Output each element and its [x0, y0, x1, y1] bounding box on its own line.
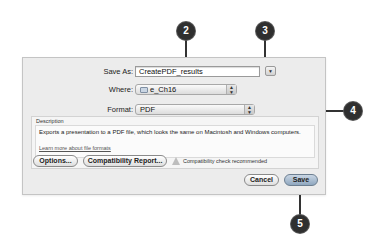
popup-arrows-icon: ▲▼ — [244, 105, 254, 114]
cancel-button[interactable]: Cancel — [244, 174, 279, 186]
description-text: Exports a presentation to a PDF file, wh… — [39, 129, 301, 135]
compatibility-report-button[interactable]: Compatibility Report... — [83, 155, 167, 167]
compatibility-warning-text: Compatibility check recommended — [183, 158, 267, 164]
format-popup[interactable]: PDF ▲▼ — [135, 104, 255, 115]
where-label: Where: — [83, 85, 133, 94]
callout-5: 5 — [291, 215, 309, 233]
folder-icon — [140, 87, 148, 93]
warning-icon — [172, 157, 180, 165]
callout-3: 3 — [256, 22, 274, 40]
format-label: Format: — [83, 105, 133, 114]
format-value: PDF — [140, 105, 155, 114]
description-label: Description — [36, 118, 64, 124]
save-as-input[interactable]: CreatePDF_results — [135, 66, 260, 77]
chevron-down-icon: ▼ — [268, 68, 273, 74]
callout-4: 4 — [344, 102, 362, 120]
description-box: Exports a presentation to a PDF file, wh… — [35, 125, 315, 158]
where-value: e_Ch16 — [150, 85, 176, 94]
save-button[interactable]: Save — [284, 174, 318, 186]
save-as-label: Save As: — [83, 67, 133, 76]
where-popup[interactable]: e_Ch16 ▲▼ — [135, 84, 237, 95]
learn-more-link[interactable]: Learn more about file formats — [39, 145, 111, 151]
callout-2: 2 — [177, 22, 195, 40]
save-dialog: Save As: CreatePDF_results ▼ Where: e_Ch… — [22, 57, 326, 195]
popup-arrows-icon: ▲▼ — [226, 85, 236, 94]
options-button[interactable]: Options... — [33, 155, 78, 167]
expand-dialog-button[interactable]: ▼ — [265, 66, 276, 76]
